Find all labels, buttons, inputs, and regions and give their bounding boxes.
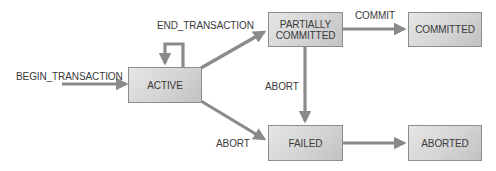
state-failed: FAILED bbox=[268, 125, 343, 161]
label-abort-from-active: ABORT bbox=[216, 138, 250, 149]
state-partially-committed: PARTIALLY COMMITTED bbox=[268, 12, 343, 47]
state-aborted: ABORTED bbox=[408, 125, 482, 161]
label-begin-transaction: BEGIN_TRANSACTION bbox=[16, 71, 123, 82]
state-active-label: ACTIVE bbox=[147, 80, 183, 91]
state-active: ACTIVE bbox=[128, 67, 202, 103]
transaction-state-diagram: ACTIVE PARTIALLY COMMITTED COMMITTED FAI… bbox=[0, 0, 496, 171]
label-commit: COMMIT bbox=[355, 10, 395, 21]
state-aborted-label: ABORTED bbox=[421, 138, 468, 149]
state-committed-label: COMMITTED bbox=[415, 24, 475, 35]
state-partially-committed-label: PARTIALLY COMMITTED bbox=[276, 19, 336, 41]
state-committed: COMMITTED bbox=[408, 12, 482, 47]
arrow-abort-from-active bbox=[201, 101, 264, 139]
arrow-self-loop bbox=[165, 44, 183, 67]
arrow-end-transaction bbox=[201, 32, 264, 68]
state-failed-label: FAILED bbox=[289, 138, 323, 149]
label-abort-from-partial: ABORT bbox=[265, 81, 299, 92]
label-end-transaction: END_TRANSACTION bbox=[157, 20, 254, 31]
